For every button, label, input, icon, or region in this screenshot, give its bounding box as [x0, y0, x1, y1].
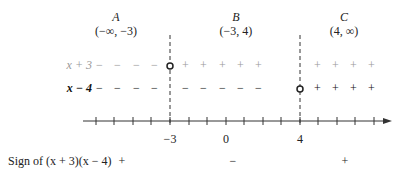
- region-b-letter: B: [216, 10, 256, 25]
- axis-arrow-icon: [383, 118, 392, 124]
- sign-row-label: Sign of (x + 3)(x − 4): [8, 154, 112, 169]
- sign-region-a: +: [114, 154, 130, 169]
- region-a-interval: (−∞, −3): [86, 24, 146, 39]
- row-label-x-minus-4: x − 4: [58, 81, 92, 96]
- open-circle-x4: [297, 86, 303, 92]
- sign-region-b: −: [225, 154, 241, 169]
- tick-label-4: 4: [285, 132, 315, 147]
- region-b-interval: (−3, 4): [206, 24, 266, 39]
- row-label-x-plus-3: x + 3: [58, 58, 92, 73]
- region-a-letter: A: [96, 10, 136, 25]
- region-c-interval: (4, ∞): [314, 24, 374, 39]
- region-c-letter: C: [324, 10, 364, 25]
- tick-label-0: 0: [211, 132, 241, 147]
- sign-region-c: +: [337, 154, 353, 169]
- open-circle-x3: [167, 63, 173, 69]
- tick-label-minus3: −3: [155, 132, 185, 147]
